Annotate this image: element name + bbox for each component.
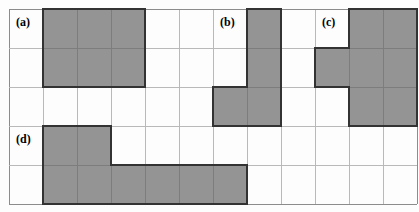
shape-label-d: (d) [16,133,31,145]
grid-area: (a)(b)(c)(d) [9,9,417,204]
shape-outline-d [9,9,417,204]
polyomino-figure: (a)(b)(c)(d) [0,0,419,212]
